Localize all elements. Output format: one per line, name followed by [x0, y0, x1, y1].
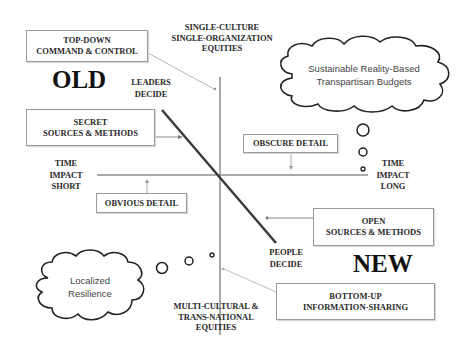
- connector-bottom-up: [224, 269, 276, 292]
- horizontal-axis-right-label: TIME IMPACT LONG: [368, 158, 418, 193]
- new-era-label: NEW: [353, 251, 413, 277]
- top-down-command-box: TOP-DOWN COMMAND & CONTROL: [26, 30, 148, 62]
- old-era-label: OLD: [52, 67, 106, 93]
- obscure-detail-box: OBSCURE DETAIL: [243, 134, 338, 153]
- people-decide-label: PEOPLE DECIDE: [262, 246, 310, 270]
- thought-bubble-large: [157, 263, 168, 274]
- secret-sources-box: SECRET SOURCES & METHODS: [26, 109, 155, 146]
- bottom-up-sharing-box: BOTTOM-UP INFORMATION-SHARING: [276, 283, 435, 320]
- cloud-bottom-left-text: Localized Resilience: [50, 274, 130, 300]
- obvious-detail-box: OBVIOUS DETAIL: [96, 193, 187, 213]
- cloud-top-right-text: Sustainable Reality-Based Transpartisan …: [290, 62, 438, 88]
- thought-bubble-medium: [185, 257, 193, 265]
- thought-bubble-medium: [359, 148, 367, 156]
- leaders-people-diagonal: [162, 110, 276, 243]
- thought-bubble-small: [210, 253, 214, 257]
- leaders-decide-label: LEADERS DECIDE: [124, 76, 178, 100]
- vertical-axis-bottom-label: MULTI-CULTURAL & TRANS-NATIONAL EQUITIES: [160, 301, 272, 333]
- horizontal-axis-left-label: TIME IMPACT SHORT: [42, 158, 90, 193]
- thought-bubble-large: [357, 124, 369, 136]
- open-sources-box: OPEN SOURCES & METHODS: [313, 208, 434, 246]
- thought-bubble-small: [361, 167, 365, 171]
- vertical-axis-top-label: SINGLE-CULTURE SINGLE-ORGANIZATION EQUIT…: [158, 22, 286, 54]
